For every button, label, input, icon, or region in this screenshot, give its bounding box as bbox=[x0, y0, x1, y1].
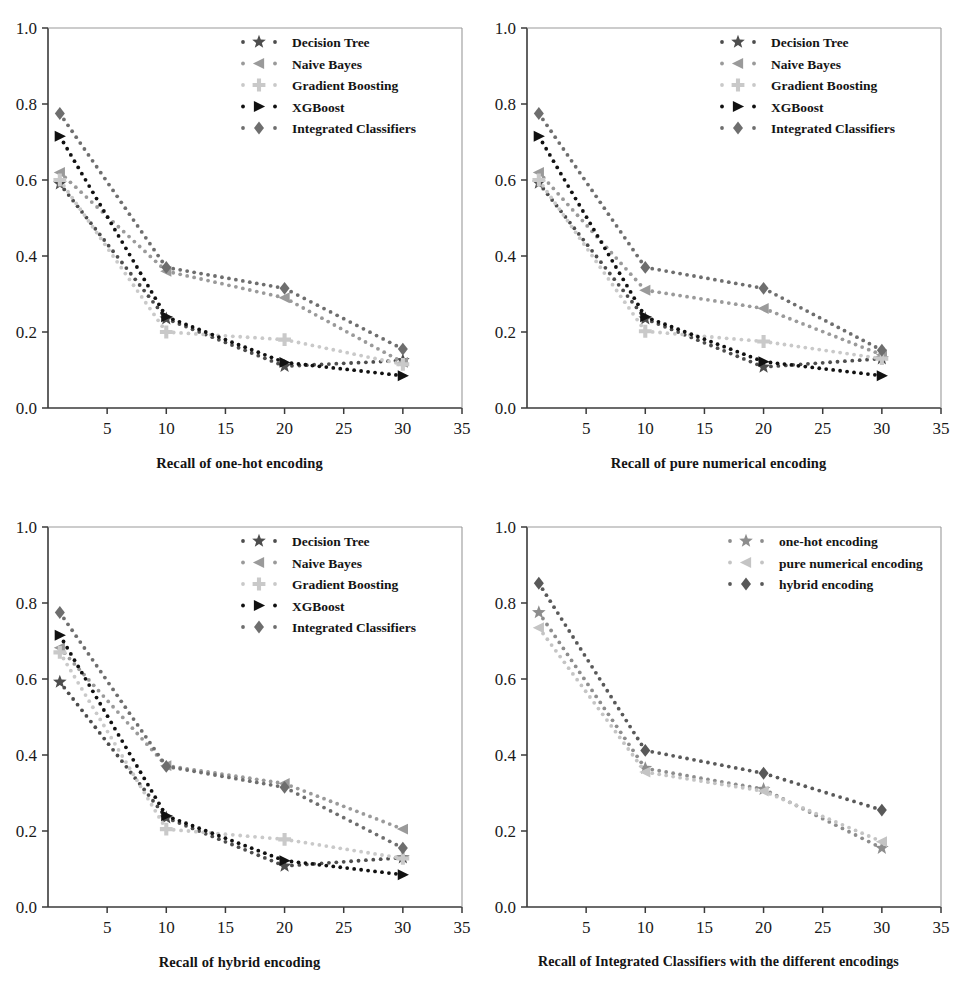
svg-text:1.0: 1.0 bbox=[495, 19, 516, 38]
svg-text:5: 5 bbox=[103, 419, 112, 438]
plot-area-one-hot: 0.00.20.40.60.81.05101520253035Decision … bbox=[0, 0, 479, 499]
xaxis-label-one-hot: Recall of one-hot encoding bbox=[0, 455, 479, 472]
svg-text:20: 20 bbox=[755, 918, 772, 937]
svg-text:25: 25 bbox=[814, 419, 831, 438]
svg-text:0.6: 0.6 bbox=[16, 171, 37, 190]
chart-svg-one-hot: 0.00.20.40.60.81.05101520253035Decision … bbox=[0, 0, 479, 499]
svg-text:0.0: 0.0 bbox=[16, 399, 37, 418]
svg-text:10: 10 bbox=[158, 918, 175, 937]
svg-text:Naive Bayes: Naive Bayes bbox=[292, 57, 362, 72]
svg-text:0.8: 0.8 bbox=[16, 594, 37, 613]
svg-text:1.0: 1.0 bbox=[16, 518, 37, 537]
svg-text:0.4: 0.4 bbox=[16, 247, 38, 266]
svg-text:0.2: 0.2 bbox=[16, 822, 37, 841]
svg-text:0.8: 0.8 bbox=[495, 594, 516, 613]
svg-text:0.4: 0.4 bbox=[16, 746, 38, 765]
svg-text:30: 30 bbox=[873, 918, 890, 937]
chart-svg-pure-numerical: 0.00.20.40.60.81.05101520253035Decision … bbox=[479, 0, 958, 499]
svg-text:pure numerical encoding: pure numerical encoding bbox=[779, 556, 923, 571]
svg-text:Gradient Boosting: Gradient Boosting bbox=[292, 78, 398, 93]
svg-text:0.6: 0.6 bbox=[495, 670, 516, 689]
svg-text:1.0: 1.0 bbox=[16, 19, 37, 38]
svg-text:1.0: 1.0 bbox=[495, 518, 516, 537]
svg-text:5: 5 bbox=[582, 918, 591, 937]
svg-text:Naive Bayes: Naive Bayes bbox=[292, 556, 362, 571]
svg-text:15: 15 bbox=[696, 419, 713, 438]
panel-pure-numerical: 0.00.20.40.60.81.05101520253035Decision … bbox=[479, 0, 958, 499]
svg-text:0.0: 0.0 bbox=[495, 898, 516, 917]
svg-text:5: 5 bbox=[582, 419, 591, 438]
svg-text:0.6: 0.6 bbox=[16, 670, 37, 689]
panel-one-hot: 0.00.20.40.60.81.05101520253035Decision … bbox=[0, 0, 479, 499]
svg-text:30: 30 bbox=[873, 419, 890, 438]
svg-text:25: 25 bbox=[814, 918, 831, 937]
svg-text:10: 10 bbox=[637, 918, 654, 937]
panel-hybrid: 0.00.20.40.60.81.05101520253035Decision … bbox=[0, 499, 479, 998]
plot-area-hybrid: 0.00.20.40.60.81.05101520253035Decision … bbox=[0, 499, 479, 998]
panel-integrated-comparison: 0.00.20.40.60.81.05101520253035one-hot e… bbox=[479, 499, 958, 998]
svg-text:0.2: 0.2 bbox=[16, 323, 37, 342]
svg-text:0.6: 0.6 bbox=[495, 171, 516, 190]
svg-text:Naive Bayes: Naive Bayes bbox=[771, 57, 841, 72]
plot-area-integrated-comparison: 0.00.20.40.60.81.05101520253035one-hot e… bbox=[479, 499, 958, 998]
svg-text:0.2: 0.2 bbox=[495, 323, 516, 342]
svg-text:one-hot encoding: one-hot encoding bbox=[779, 534, 878, 549]
chart-svg-hybrid: 0.00.20.40.60.81.05101520253035Decision … bbox=[0, 499, 479, 998]
svg-text:25: 25 bbox=[335, 918, 352, 937]
svg-text:15: 15 bbox=[217, 419, 234, 438]
svg-text:35: 35 bbox=[933, 918, 950, 937]
svg-text:5: 5 bbox=[103, 918, 112, 937]
xaxis-label-hybrid: Recall of hybrid encoding bbox=[0, 954, 479, 971]
svg-text:10: 10 bbox=[637, 419, 654, 438]
chart-svg-integrated-comparison: 0.00.20.40.60.81.05101520253035one-hot e… bbox=[479, 499, 958, 998]
svg-text:10: 10 bbox=[158, 419, 175, 438]
svg-text:35: 35 bbox=[454, 419, 471, 438]
svg-text:Integrated Classifiers: Integrated Classifiers bbox=[292, 620, 416, 635]
svg-text:20: 20 bbox=[276, 918, 293, 937]
svg-text:Gradient Boosting: Gradient Boosting bbox=[292, 577, 398, 592]
svg-text:0.2: 0.2 bbox=[495, 822, 516, 841]
svg-text:35: 35 bbox=[454, 918, 471, 937]
svg-text:Integrated Classifiers: Integrated Classifiers bbox=[292, 121, 416, 136]
svg-text:Decision Tree: Decision Tree bbox=[771, 35, 849, 50]
svg-text:XGBoost: XGBoost bbox=[771, 100, 824, 115]
svg-text:35: 35 bbox=[933, 419, 950, 438]
svg-text:0.0: 0.0 bbox=[495, 399, 516, 418]
svg-text:hybrid encoding: hybrid encoding bbox=[779, 577, 873, 592]
svg-text:0.0: 0.0 bbox=[16, 898, 37, 917]
figure-root: 0.00.20.40.60.81.05101520253035Decision … bbox=[0, 0, 958, 998]
xaxis-label-pure-numerical: Recall of pure numerical encoding bbox=[479, 455, 958, 472]
svg-text:25: 25 bbox=[335, 419, 352, 438]
svg-text:30: 30 bbox=[394, 918, 411, 937]
svg-text:0.8: 0.8 bbox=[495, 95, 516, 114]
svg-text:30: 30 bbox=[394, 419, 411, 438]
svg-text:XGBoost: XGBoost bbox=[292, 599, 345, 614]
plot-area-pure-numerical: 0.00.20.40.60.81.05101520253035Decision … bbox=[479, 0, 958, 499]
svg-text:0.4: 0.4 bbox=[495, 746, 517, 765]
svg-text:Gradient Boosting: Gradient Boosting bbox=[771, 78, 877, 93]
svg-text:Decision Tree: Decision Tree bbox=[292, 35, 370, 50]
svg-text:XGBoost: XGBoost bbox=[292, 100, 345, 115]
svg-text:0.4: 0.4 bbox=[495, 247, 517, 266]
svg-text:15: 15 bbox=[696, 918, 713, 937]
svg-text:20: 20 bbox=[276, 419, 293, 438]
svg-text:15: 15 bbox=[217, 918, 234, 937]
svg-text:0.8: 0.8 bbox=[16, 95, 37, 114]
xaxis-label-integrated-comparison: Recall of Integrated Classifiers with th… bbox=[479, 954, 958, 970]
svg-text:Integrated Classifiers: Integrated Classifiers bbox=[771, 121, 895, 136]
svg-text:20: 20 bbox=[755, 419, 772, 438]
svg-text:Decision Tree: Decision Tree bbox=[292, 534, 370, 549]
